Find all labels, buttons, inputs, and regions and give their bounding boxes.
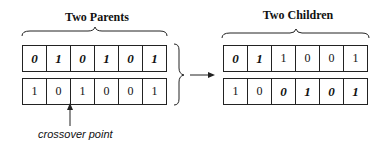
bit-cell: 0 bbox=[119, 79, 143, 104]
bit-cell: 0 bbox=[320, 46, 344, 71]
bit-cell: 1 bbox=[143, 79, 166, 104]
bit-cell: 0 bbox=[47, 79, 71, 104]
bit-cell: 0 bbox=[23, 46, 47, 71]
bit-cell: 0 bbox=[71, 46, 95, 71]
bit-cell: 1 bbox=[23, 79, 47, 104]
bit-cell: 1 bbox=[344, 46, 367, 71]
bit-cell: 1 bbox=[224, 79, 248, 104]
arrow-right-icon bbox=[208, 72, 215, 78]
bit-cell: 1 bbox=[344, 79, 367, 104]
bit-cell: 1 bbox=[143, 46, 166, 71]
parents-brace bbox=[22, 27, 167, 36]
child-row-2: 100101 bbox=[223, 78, 368, 105]
bit-cell: 0 bbox=[320, 79, 344, 104]
parents-title: Two Parents bbox=[62, 10, 132, 25]
bit-cell: 1 bbox=[248, 46, 272, 71]
bit-cell: 1 bbox=[296, 79, 320, 104]
bit-cell: 1 bbox=[95, 46, 119, 71]
bit-cell: 0 bbox=[272, 79, 296, 104]
children-title: Two Children bbox=[258, 8, 338, 23]
bit-cell: 1 bbox=[71, 79, 95, 104]
bit-cell: 0 bbox=[224, 46, 248, 71]
bit-cell: 1 bbox=[272, 46, 296, 71]
child-row-1: 011001 bbox=[223, 45, 368, 72]
parent-row-2: 101001 bbox=[22, 78, 167, 105]
bit-cell: 0 bbox=[119, 46, 143, 71]
right-brace bbox=[174, 44, 184, 105]
bit-cell: 0 bbox=[95, 79, 119, 104]
children-brace bbox=[222, 29, 369, 38]
bit-cell: 0 bbox=[296, 46, 320, 71]
bit-cell: 0 bbox=[248, 79, 272, 104]
bit-cell: 1 bbox=[47, 46, 71, 71]
parent-row-1: 010101 bbox=[22, 45, 167, 72]
crossover-label: crossover point bbox=[38, 128, 113, 140]
